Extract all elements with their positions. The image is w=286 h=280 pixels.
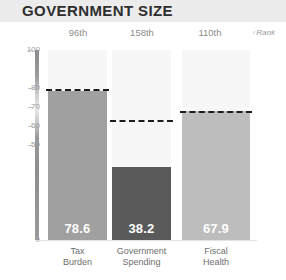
bar-reference-line-fiscal-health	[180, 111, 252, 113]
bar-fill-government-spending: 38.2	[112, 167, 171, 240]
plot-area: 100 80 70 60 50 0 78.6	[0, 0, 286, 280]
bar-group-government-spending[interactable]: 38.2 Government Spending	[112, 50, 171, 240]
y-axis-tick-80: 80	[0, 84, 40, 92]
bar-group-fiscal-health[interactable]: 67.9 Fiscal Health	[182, 50, 250, 240]
bar-fill-fiscal-health: 67.9	[182, 111, 250, 240]
y-axis-tick-dash-70	[28, 107, 33, 108]
bar-fill-tax-burden: 78.6	[48, 91, 107, 240]
y-axis-tick-60: 60	[0, 122, 40, 130]
bar-reference-line-tax-burden	[46, 89, 109, 91]
y-axis-tick-50: 50	[0, 141, 40, 149]
bar-reference-line-government-spending	[110, 120, 173, 122]
bar-caption-line2-fiscal-health: Health	[172, 257, 260, 268]
y-axis-tick-0: 0	[0, 236, 40, 244]
y-axis-tick-dash-60	[28, 126, 33, 127]
y-axis-tick-70: 70	[0, 103, 40, 111]
y-axis-tick-dash-80	[28, 88, 33, 89]
bar-value-government-spending: 38.2	[112, 221, 171, 236]
y-axis-tick-100: 100	[0, 46, 40, 54]
y-axis-tick-dash-100	[28, 50, 33, 51]
bar-caption-line1-fiscal-health: Fiscal	[172, 246, 260, 257]
axis-baseline	[35, 240, 257, 241]
bar-caption-fiscal-health: Fiscal Health	[172, 246, 260, 267]
bar-caption-line2-government-spending: Spending	[102, 257, 181, 268]
bar-group-tax-burden[interactable]: 78.6 Tax Burden	[48, 50, 107, 240]
bar-value-tax-burden: 78.6	[48, 221, 107, 236]
government-size-chart-card: GOVERNMENT SIZE 96th 158th 110th ‹Rank 1…	[0, 0, 286, 280]
bar-caption-government-spending: Government Spending	[102, 246, 181, 267]
y-axis-tick-dash-50	[28, 145, 33, 146]
bar-caption-line1-government-spending: Government	[102, 246, 181, 257]
bar-value-fiscal-health: 67.9	[182, 221, 250, 236]
